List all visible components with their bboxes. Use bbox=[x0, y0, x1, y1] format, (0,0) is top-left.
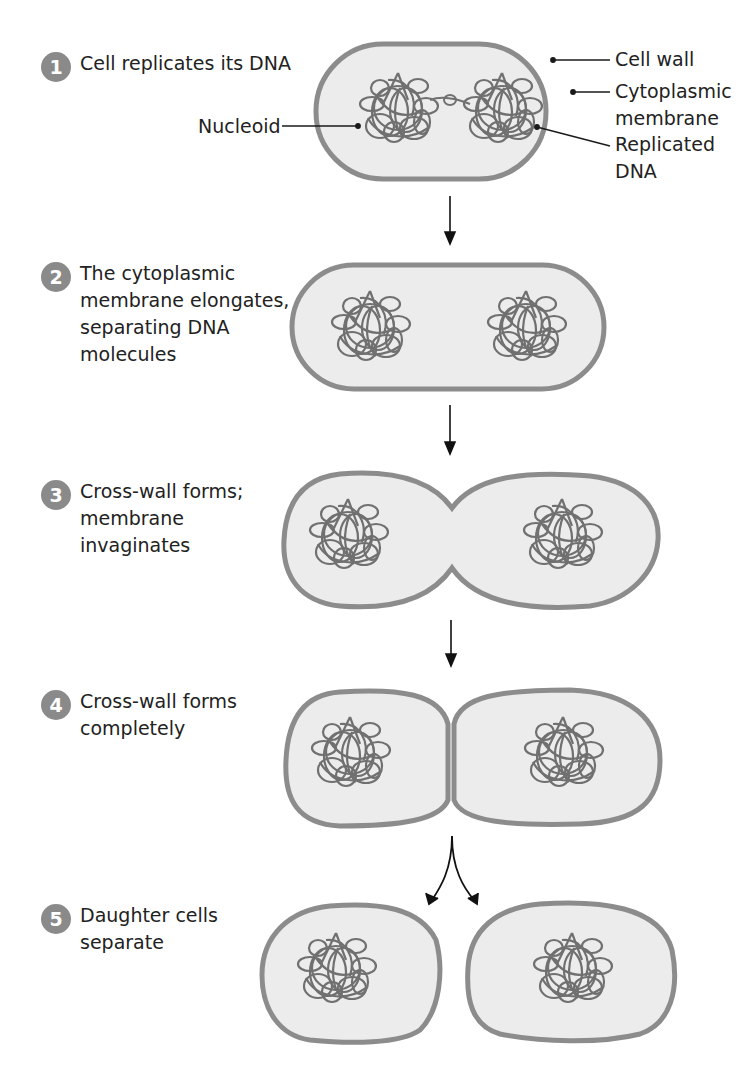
down-arrow-icon bbox=[445, 405, 455, 454]
daughter-cell-right bbox=[468, 903, 675, 1041]
daughter-cell-left bbox=[262, 905, 440, 1042]
down-arrow-icon bbox=[446, 620, 456, 666]
cell-stage-4 bbox=[286, 690, 660, 826]
split-arrow-icon bbox=[426, 836, 478, 904]
binary-fission-diagram bbox=[0, 0, 743, 1087]
cell-stage-1 bbox=[316, 44, 546, 179]
down-arrow-icon bbox=[445, 196, 455, 244]
cell-stage-3 bbox=[284, 473, 658, 607]
cell-stage-2 bbox=[292, 265, 604, 389]
